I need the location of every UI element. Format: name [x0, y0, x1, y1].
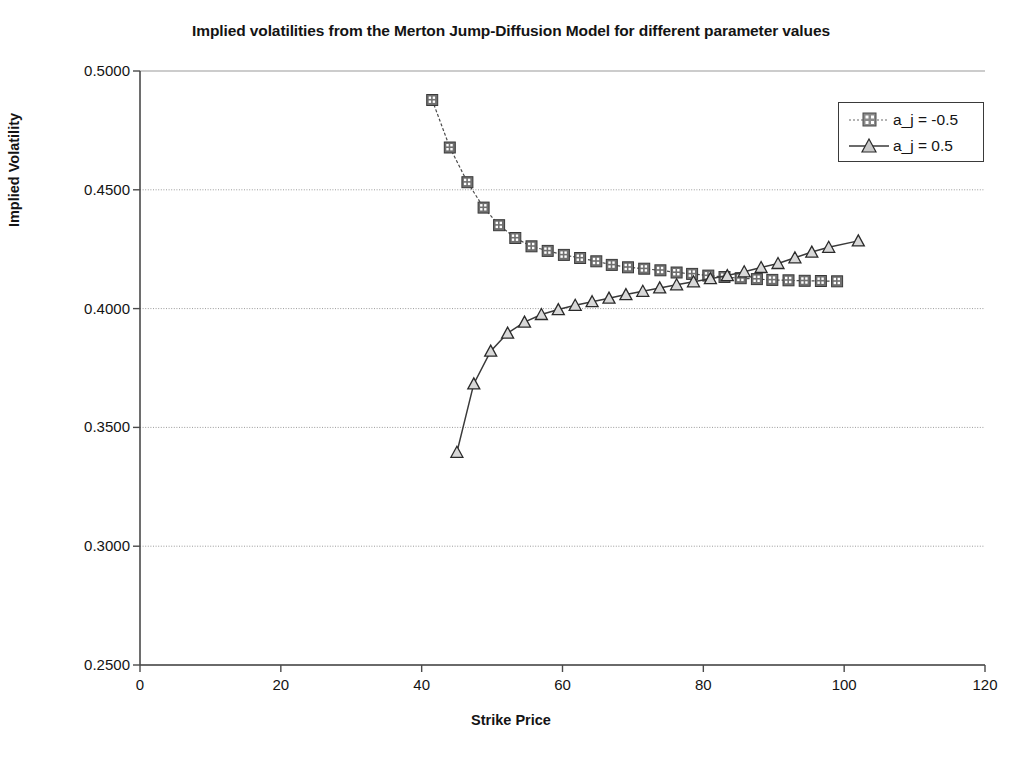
- data-point-marker: [832, 276, 843, 287]
- legend-triangle-marker-icon: [847, 136, 891, 156]
- data-point-marker: [502, 327, 514, 338]
- data-point-marker: [526, 241, 537, 252]
- data-point-marker: [427, 95, 438, 106]
- legend-item-series-1[interactable]: a_j = -0.5: [839, 107, 983, 133]
- implied-volatility-chart: Implied volatilities from the Merton Jum…: [0, 0, 1022, 764]
- series-line: [432, 100, 837, 281]
- data-point-marker: [575, 253, 586, 264]
- data-point-marker: [542, 245, 553, 256]
- data-point-marker: [478, 202, 489, 213]
- legend-label-series-2: a_j = 0.5: [893, 137, 953, 155]
- data-point-marker: [799, 275, 810, 286]
- data-point-marker: [468, 378, 480, 389]
- data-point-marker: [751, 274, 762, 285]
- data-point-marker: [783, 275, 794, 286]
- data-point-marker: [591, 256, 602, 267]
- legend-square-marker-icon: [847, 110, 891, 130]
- data-point-marker: [639, 263, 650, 274]
- data-point-marker: [767, 274, 778, 285]
- data-point-marker: [494, 220, 505, 231]
- data-point-marker: [815, 276, 826, 287]
- data-point-marker: [606, 259, 617, 270]
- data-point-marker: [671, 267, 682, 278]
- data-point-marker: [510, 233, 521, 244]
- data-point-marker: [623, 262, 634, 273]
- legend-label-series-1: a_j = -0.5: [893, 111, 958, 129]
- data-point-marker: [451, 446, 463, 457]
- data-point-marker: [444, 142, 455, 153]
- data-point-marker: [772, 258, 784, 269]
- chart-legend: a_j = -0.5 a_j = 0.5: [838, 102, 984, 162]
- data-point-marker: [519, 316, 531, 327]
- data-point-marker: [558, 249, 569, 260]
- data-point-marker: [462, 177, 473, 188]
- data-point-marker: [852, 235, 864, 246]
- data-series: [427, 95, 843, 287]
- data-point-marker: [655, 265, 666, 276]
- legend-item-series-2[interactable]: a_j = 0.5: [839, 133, 983, 159]
- data-point-marker: [789, 252, 801, 263]
